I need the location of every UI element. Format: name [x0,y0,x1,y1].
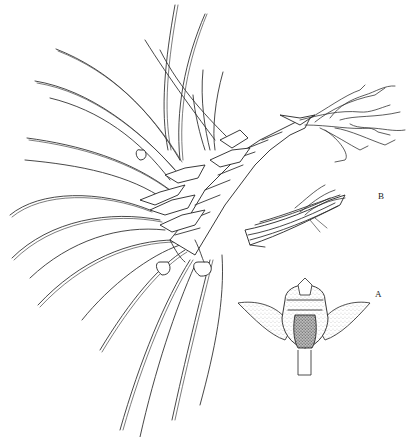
plant-drawing [0,0,419,437]
detail-b [245,185,345,247]
figure-label-b: B [378,192,384,201]
figure-label-a: A [375,290,382,299]
detail-a-flower [238,278,370,375]
botanical-illustration: B A [0,0,419,437]
roots [300,85,405,162]
